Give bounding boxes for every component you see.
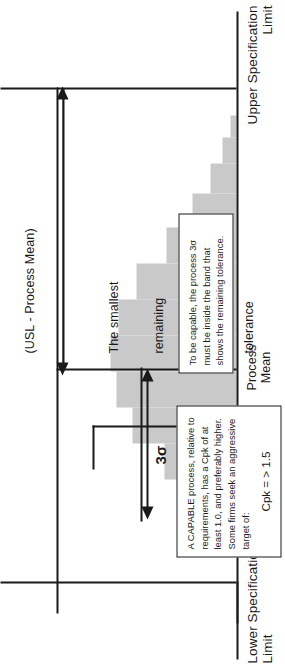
figure-stage: The smallest remaining one-sided toleran… [0,0,285,669]
callout-cpk-value: Cpk = > 1.5 [257,413,274,549]
tolerance-arrow-shaft [62,88,64,369]
sigma-arrow-head-right [141,368,153,381]
tolerance-arrow-head-right [56,86,68,99]
tolerance-arrow-head-left [56,362,68,375]
target-value-cap-rule [92,425,94,469]
callout-capability-band-text: To be capable, the process 3σ must be in… [186,235,224,365]
tolerance-annotation-line-4: tolerance [241,143,256,353]
sigma-annotation: 3σ [152,424,169,464]
upper-spec-limit-rule [0,87,236,89]
tolerance-annotation-line-2: remaining [151,143,166,353]
tolerance-annotation-line-1: The smallest [106,143,121,353]
tolerance-formula: (USL - Process Mean) [22,143,37,353]
capability-plot: The smallest remaining one-sided toleran… [0,0,285,669]
lower-spec-limit-rule [0,581,236,583]
histogram-bar [116,371,236,407]
sigma-arrow-shaft [146,375,148,509]
lower-spec-foot-rule [236,581,238,623]
callout-capability-band: To be capable, the process 3σ must be in… [178,213,233,373]
sigma-band-rule [140,367,142,521]
histogram-bar [230,115,236,137]
tolerance-band-top-rule [56,87,58,613]
callout-capable-process-text: A CAPABLE process, relative to requireme… [184,417,250,549]
upper-spec-limit-label: Upper Specification Limit [244,5,274,169]
callout-capable-process: A CAPABLE process, relative to requireme… [176,405,281,557]
process-mean-label: Process Mean [244,329,272,405]
sigma-arrow-head-left [141,506,153,519]
